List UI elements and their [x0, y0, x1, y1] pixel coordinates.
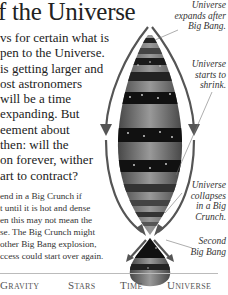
caption-expands: Universe expands after Big Bang. — [175, 0, 226, 32]
footer-nav: Gravity Stars Time Universe — [0, 279, 228, 295]
footer-divider — [0, 273, 218, 274]
footer-link-stars[interactable]: Stars — [68, 279, 95, 291]
caption-shrink: Universe starts to shrink. — [192, 59, 226, 91]
caption-second-big-bang: Second Big Bang — [190, 236, 226, 257]
footer-link-time[interactable]: Time — [120, 279, 143, 291]
footer-link-gravity[interactable]: Gravity — [0, 279, 39, 291]
footer-link-universe[interactable]: Universe — [167, 279, 211, 291]
caption-collapses: Universe collapses in a Big Crunch. — [191, 180, 226, 222]
